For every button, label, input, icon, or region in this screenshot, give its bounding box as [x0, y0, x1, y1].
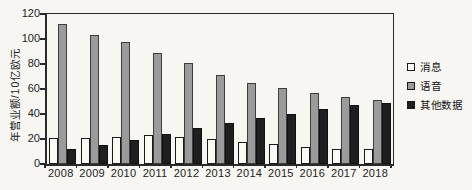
bar-语音-2011 — [153, 53, 162, 164]
bar-其他数据-2016 — [319, 109, 328, 164]
bar-消息-2018 — [364, 149, 373, 164]
bar-语音-2017 — [341, 97, 350, 165]
bar-语音-2018 — [373, 100, 382, 164]
bar-语音-2014 — [247, 83, 256, 164]
bar-语音-2013 — [216, 75, 225, 164]
bar-消息-2012 — [175, 137, 184, 165]
bar-其他数据-2017 — [350, 105, 359, 164]
x-tick-label: 2009 — [75, 167, 109, 179]
legend-item-其他数据: 其他数据 — [407, 99, 462, 110]
chart-figure: 年营业额/10亿欧元 消息语音其他数据 02040608010012020082… — [0, 0, 472, 190]
legend-swatch-icon — [407, 82, 415, 90]
y-tick-mark — [40, 38, 45, 40]
legend-label: 消息 — [420, 59, 441, 74]
bar-消息-2015 — [269, 144, 278, 164]
bar-其他数据-2011 — [162, 134, 171, 164]
x-tick-label: 2015 — [264, 167, 298, 179]
bar-语音-2008 — [58, 24, 67, 164]
bar-其他数据-2013 — [225, 123, 234, 164]
y-tick-mark — [40, 138, 45, 140]
bar-消息-2011 — [144, 135, 153, 164]
legend-item-消息: 消息 — [407, 61, 462, 72]
x-tick-label: 2013 — [201, 167, 235, 179]
x-tick-label: 2016 — [295, 167, 329, 179]
y-tick-mark — [40, 88, 45, 90]
legend-item-语音: 语音 — [407, 80, 462, 91]
plot-area — [45, 13, 394, 166]
bar-其他数据-2010 — [130, 140, 139, 164]
bar-消息-2017 — [332, 149, 341, 164]
y-tick-label: 100 — [0, 32, 40, 45]
x-tick-label: 2008 — [44, 167, 78, 179]
x-tick-label: 2011 — [138, 167, 172, 179]
bar-其他数据-2008 — [67, 149, 76, 164]
bar-其他数据-2015 — [287, 114, 296, 164]
y-tick-label: 40 — [0, 107, 40, 120]
bar-消息-2010 — [112, 137, 121, 165]
bar-消息-2016 — [301, 147, 310, 165]
y-tick-label: 80 — [0, 57, 40, 70]
legend-label: 语音 — [420, 78, 441, 93]
x-tick-mark — [390, 164, 392, 168]
bar-语音-2009 — [90, 35, 99, 164]
bar-消息-2014 — [238, 142, 247, 165]
x-tick-label: 2018 — [358, 167, 392, 179]
bar-消息-2013 — [207, 139, 216, 164]
bar-消息-2009 — [81, 138, 90, 164]
x-tick-label: 2012 — [170, 167, 204, 179]
y-tick-label: 120 — [0, 7, 40, 20]
bar-语音-2016 — [310, 93, 319, 164]
legend: 消息语音其他数据 — [407, 61, 462, 118]
bar-其他数据-2009 — [99, 145, 108, 164]
y-tick-mark — [40, 13, 45, 15]
y-tick-label: 60 — [0, 82, 40, 95]
y-tick-mark — [40, 113, 45, 115]
y-tick-label: 0 — [0, 157, 40, 170]
legend-swatch-icon — [407, 101, 415, 109]
bar-其他数据-2018 — [382, 103, 391, 164]
y-tick-mark — [40, 63, 45, 65]
bar-语音-2010 — [121, 42, 130, 165]
legend-label: 其他数据 — [420, 97, 462, 112]
bar-其他数据-2014 — [256, 118, 265, 164]
bar-语音-2012 — [184, 63, 193, 164]
x-tick-label: 2014 — [232, 167, 266, 179]
bar-其他数据-2012 — [193, 128, 202, 164]
legend-swatch-icon — [407, 63, 415, 71]
bar-语音-2015 — [278, 88, 287, 164]
x-tick-label: 2017 — [327, 167, 361, 179]
y-tick-label: 20 — [0, 132, 40, 145]
x-tick-label: 2010 — [107, 167, 141, 179]
bar-消息-2008 — [49, 138, 58, 164]
